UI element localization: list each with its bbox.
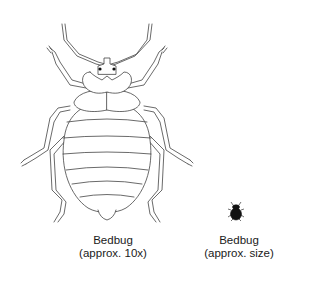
caption-small-scale: (approx. size) <box>192 247 286 260</box>
caption-actual-size-bedbug: Bedbug (approx. size) <box>192 234 286 260</box>
bedbug-large-drawing <box>21 24 193 222</box>
caption-large-scale: (approx. 10x) <box>58 247 168 260</box>
caption-small-label: Bedbug <box>192 234 286 247</box>
caption-large-bedbug: Bedbug (approx. 10x) <box>58 234 168 260</box>
bedbug-actual-size-silhouette <box>228 202 244 221</box>
caption-large-label: Bedbug <box>58 234 168 247</box>
